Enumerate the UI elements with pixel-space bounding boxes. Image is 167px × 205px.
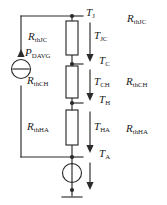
circuit-schematic [0,0,167,205]
arrowhead-pdavg [17,49,24,57]
right-label-rthch-base: R [126,75,133,87]
resistor-rthch-body [66,66,78,98]
resistor-label-rthha-sub: thHA [34,126,49,133]
resistor-label-rthjc-sub: thJC [35,36,48,43]
arrowhead-tjc [86,54,93,62]
node-label-tj: TJ [86,7,95,18]
resistor-label-rthha-base: R [27,120,34,132]
right-label-rthha-sub: thHA [133,128,148,135]
node-label-ta: TA [99,148,110,159]
resistor-label-rthjc-base: R [28,30,35,42]
drop-label-tch: TCH [94,76,110,87]
junction-dot-ta [70,155,74,159]
thermal-circuit-diagram: RthJC RthCH RthHA TJ TC TH TA TJC TCH TH… [0,0,167,205]
node-label-tc-sub: C [105,60,110,67]
arrowhead-tch [86,93,93,101]
power-source-label-base: P [25,46,32,58]
drop-label-tch-sub: CH [100,81,109,88]
resistor-rthjc-body [66,21,78,55]
node-label-th: TH [99,94,110,105]
junction-dot-tc [70,62,74,66]
resistor-label-rthch-base: R [27,74,34,86]
resistor-rthha-body [66,110,78,145]
right-label-rthch: RthCH [126,76,148,87]
right-label-rthch-sub: thCH [133,81,148,88]
resistor-label-rthch: RthCH [27,75,49,86]
right-label-rthjc-base: R [127,12,134,24]
right-label-rthjc-sub: thJC [134,18,147,25]
right-label-rthha-base: R [126,122,133,134]
arrowhead-tha [86,145,93,153]
resistor-label-rthha: RthHA [27,121,49,132]
power-source-label: PDAVG [25,47,51,58]
drop-label-tjc: TJC [94,30,107,41]
node-label-ta-sub: A [105,153,110,160]
drop-label-tjc-sub: JC [100,35,107,42]
right-label-rthha: RthHA [126,123,148,134]
resistor-label-rthjc: RthJC [28,31,47,42]
node-label-tc: TC [99,55,110,66]
resistor-label-rthch-sub: thCH [34,80,49,87]
junction-dot-tj [70,14,74,18]
node-label-tj-sub: J [92,12,95,19]
node-label-th-sub: H [105,99,110,106]
drop-label-tha: THA [94,121,110,132]
right-label-rthjc: RthJC [127,13,146,24]
junction-dot-th [70,101,74,105]
junction-dot-ground [70,188,74,192]
drop-label-tha-sub: HA [100,126,110,133]
power-source-label-sub: DAVG [32,52,51,59]
arrowhead-ta [86,182,93,190]
